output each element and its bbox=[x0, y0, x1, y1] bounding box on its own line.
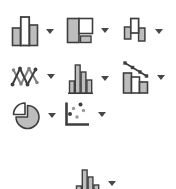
dropdown-caret-icon[interactable] bbox=[48, 113, 56, 118]
insert-scatter-chart-button[interactable] bbox=[63, 101, 106, 128]
insert-hierarchy-chart-button[interactable] bbox=[66, 17, 109, 44]
column-chart-icon bbox=[11, 15, 39, 47]
dropdown-caret-icon[interactable] bbox=[155, 29, 163, 34]
treemap-icon bbox=[66, 17, 94, 44]
dropdown-caret-icon[interactable] bbox=[46, 29, 54, 34]
insert-pie-chart-button[interactable] bbox=[11, 99, 56, 131]
insert-statistic-chart-button[interactable] bbox=[67, 61, 109, 95]
histogram-icon bbox=[67, 61, 94, 95]
histogram-icon bbox=[74, 166, 101, 189]
dropdown-caret-icon[interactable] bbox=[157, 75, 165, 80]
dropdown-caret-icon[interactable] bbox=[47, 74, 55, 79]
dropdown-caret-icon[interactable] bbox=[101, 28, 109, 33]
insert-line-chart-button[interactable] bbox=[10, 63, 55, 90]
insert-column-chart-button[interactable] bbox=[11, 15, 54, 47]
combo-chart-icon bbox=[122, 60, 150, 94]
charts-toolbar-group bbox=[0, 0, 176, 189]
waterfall-chart-icon bbox=[123, 17, 148, 45]
scatter-chart-icon bbox=[63, 101, 91, 128]
dropdown-caret-icon[interactable] bbox=[98, 112, 106, 117]
dropdown-caret-icon[interactable] bbox=[101, 76, 109, 81]
insert-waterfall-chart-button[interactable] bbox=[123, 17, 163, 45]
line-chart-icon bbox=[10, 63, 40, 90]
insert-combo-chart-button[interactable] bbox=[122, 60, 165, 94]
insert-statistic-chart-button-secondary[interactable] bbox=[74, 166, 116, 189]
dropdown-caret-icon[interactable] bbox=[108, 181, 116, 186]
pie-chart-icon bbox=[11, 99, 41, 131]
